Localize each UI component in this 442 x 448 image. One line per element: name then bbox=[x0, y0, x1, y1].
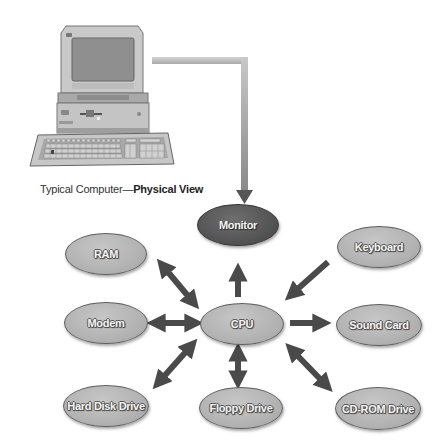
node-modem-label: Modem bbox=[87, 317, 124, 329]
node-cpu: CPU bbox=[200, 303, 284, 345]
node-hard-disk-drive-label: Hard Disk Drive bbox=[67, 400, 144, 412]
system-unit-illustration bbox=[57, 93, 149, 133]
node-keyboard-label: Keyboard bbox=[355, 241, 403, 253]
node-keyboard: Keyboard bbox=[337, 226, 421, 268]
caption-bold: Physical View bbox=[133, 183, 203, 195]
arrow-cpu-cdrom bbox=[292, 350, 326, 385]
arrow-keyboard-cpu bbox=[292, 262, 328, 294]
arrow-cpu-ram bbox=[163, 266, 193, 302]
node-cdrom-drive-label: CD-ROM Drive bbox=[342, 403, 414, 415]
node-ram: RAM bbox=[65, 233, 147, 275]
node-ram-label: RAM bbox=[94, 248, 118, 260]
node-monitor-label: Monitor bbox=[219, 219, 257, 231]
computer-illustration bbox=[30, 26, 174, 166]
node-cpu-label: CPU bbox=[231, 318, 253, 330]
connector-to-monitor bbox=[152, 57, 253, 204]
monitor-illustration bbox=[61, 26, 143, 93]
node-floppy-drive-label: Floppy Drive bbox=[209, 402, 272, 414]
node-monitor: Monitor bbox=[197, 204, 279, 246]
node-hard-disk-drive: Hard Disk Drive bbox=[63, 385, 149, 427]
node-floppy-drive: Floppy Drive bbox=[199, 387, 283, 429]
node-sound-card: Sound Card bbox=[336, 304, 422, 346]
arrow-cpu-harddisk bbox=[159, 346, 191, 382]
node-modem: Modem bbox=[64, 302, 148, 344]
node-sound-card-label: Sound Card bbox=[349, 319, 408, 331]
computer-architecture-diagram: Typical Computer—Physical View RAM Monit… bbox=[0, 0, 442, 448]
node-cdrom-drive: CD-ROM Drive bbox=[335, 387, 421, 430]
figure-caption: Typical Computer—Physical View bbox=[40, 183, 203, 195]
caption-prefix: Typical Computer— bbox=[40, 183, 133, 195]
keyboard-illustration bbox=[30, 133, 174, 166]
